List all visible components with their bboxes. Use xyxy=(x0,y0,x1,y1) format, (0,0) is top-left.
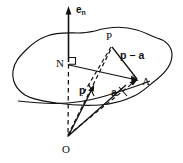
right-angle-marker xyxy=(69,58,76,65)
label-point-N: N xyxy=(56,58,64,69)
segment-N-to-A xyxy=(69,65,137,80)
vector-diagram-figure: en P N A O p − a p a xyxy=(0,0,183,163)
label-normal-axis: en xyxy=(76,5,86,15)
normal-axis-arrowhead xyxy=(66,6,72,15)
label-vector-a: a xyxy=(111,87,117,98)
segment-P-to-N-dashed xyxy=(82,47,111,96)
label-point-P: P xyxy=(106,31,112,42)
axis-dashed-to-origin xyxy=(68,64,69,135)
label-vector-p: p xyxy=(79,85,85,96)
diagram-canvas xyxy=(0,0,183,163)
label-point-A: A xyxy=(142,76,150,87)
label-normal-axis-subscript: n xyxy=(82,9,86,16)
origin-node xyxy=(67,135,69,137)
vector-p-dashed-O-to-P xyxy=(68,48,112,135)
label-point-O: O xyxy=(62,144,70,155)
label-vector-p-minus-a: p − a xyxy=(120,50,144,61)
label-normal-axis-text: e xyxy=(76,4,82,15)
